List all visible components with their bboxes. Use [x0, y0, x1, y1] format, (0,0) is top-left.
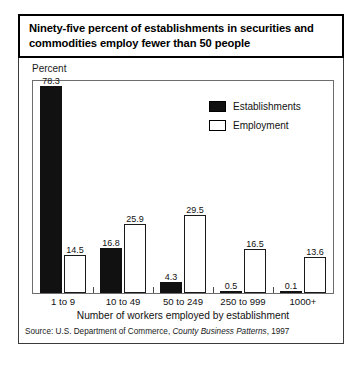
bar-employment-50-to-249: 29.5 [184, 215, 206, 293]
bar-value-label: 4.3 [165, 272, 178, 282]
bar-establishments-10-to-49: 16.8 [100, 248, 122, 293]
bar-value-label: 0.1 [285, 281, 298, 291]
source-suffix: , 1997 [267, 327, 290, 336]
bars-layer: 78.314.516.825.94.329.50.516.50.113.6 [33, 81, 333, 293]
x-axis-tick-labels: 1 to 910 to 4950 to 249250 to 9991000+ [32, 296, 334, 310]
bar-group: 16.825.9 [100, 81, 146, 293]
x-axis-tick [273, 287, 274, 293]
bar-group: 4.329.5 [160, 81, 206, 293]
bar-value-label: 14.5 [66, 245, 84, 255]
page-title: Ninety-five percent of establishments in… [29, 21, 333, 50]
x-label-1000+: 1000+ [290, 296, 317, 307]
x-axis-tick [93, 287, 94, 293]
plot-inner: Establishments Employment 78.314.516.825… [33, 81, 333, 293]
plot-area: Establishments Employment 78.314.516.825… [32, 80, 334, 294]
source-prefix: Source: U.S. Department of Commerce, [25, 327, 172, 336]
bar-employment-10-to-49: 25.9 [124, 224, 146, 293]
bar-employment-1000+: 13.6 [304, 257, 326, 293]
chart-title-box: Ninety-five percent of establishments in… [18, 14, 344, 58]
bar-value-label: 78.3 [42, 76, 60, 86]
bar-value-label: 13.6 [306, 247, 324, 257]
bar-value-label: 25.9 [126, 214, 144, 224]
bar-group: 0.516.5 [220, 81, 266, 293]
y-axis-caption: Percent [32, 63, 66, 74]
x-label-10-to-49: 10 to 49 [106, 296, 141, 307]
bar-employment-250-to-999: 16.5 [244, 249, 266, 293]
bar-group: 78.314.5 [40, 81, 86, 293]
bar-value-label: 16.5 [246, 239, 264, 249]
x-axis-tick [153, 287, 154, 293]
bar-establishments-1000+: 0.1 [280, 291, 302, 293]
x-axis-title: Number of workers employed by establishm… [32, 310, 334, 321]
bar-value-label: 29.5 [186, 205, 204, 215]
bar-group: 0.113.6 [280, 81, 326, 293]
x-axis-tick [213, 287, 214, 293]
x-label-50-to-249: 50 to 249 [163, 296, 203, 307]
bar-value-label: 16.8 [102, 238, 120, 248]
x-label-1-to-9: 1 to 9 [51, 296, 75, 307]
figure-frame: Ninety-five percent of establishments in… [18, 14, 344, 344]
bar-value-label: 0.5 [225, 281, 238, 291]
source-note: Source: U.S. Department of Commerce, Cou… [25, 327, 339, 336]
source-publication: County Business Patterns [172, 327, 266, 336]
bar-establishments-250-to-999: 0.5 [220, 291, 242, 293]
x-label-250-to-999: 250 to 999 [220, 296, 265, 307]
bar-establishments-50-to-249: 4.3 [160, 282, 182, 293]
bar-establishments-1-to-9: 78.3 [40, 86, 62, 293]
bar-employment-1-to-9: 14.5 [64, 255, 86, 293]
